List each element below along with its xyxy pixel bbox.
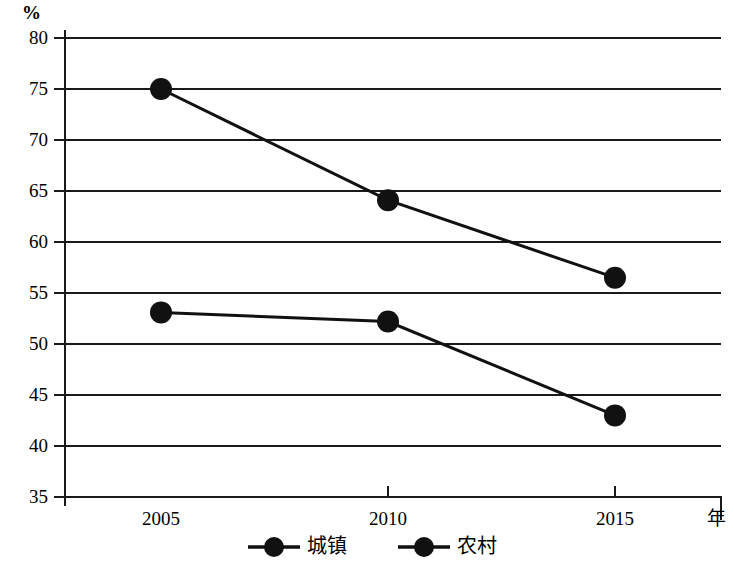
y-tick-marks	[54, 38, 65, 497]
y-tick-label-40: 40	[2, 436, 48, 455]
data-point-rural-2010	[377, 189, 399, 211]
legend-item-rural-label: 农村	[457, 536, 497, 556]
data-point-urban-2010	[377, 311, 399, 333]
legend-marker-rural-icon	[398, 537, 450, 557]
chart-canvas	[0, 0, 734, 566]
data-point-rural-2015	[604, 267, 626, 289]
y-tick-label-45: 45	[2, 385, 48, 404]
x-tick-label-2005: 2005	[116, 509, 206, 528]
y-tick-label-70: 70	[2, 130, 48, 149]
data-point-rural-2005	[150, 78, 172, 100]
y-axis-unit-label: %	[22, 3, 41, 22]
y-tick-label-35: 35	[2, 487, 48, 506]
data-point-urban-2005	[150, 301, 172, 323]
line-chart: % 80 75 70 65 60 55 50 45 40 35 2005 201…	[0, 0, 734, 566]
legend-item-urban-label: 城镇	[307, 536, 347, 556]
y-tick-label-55: 55	[2, 283, 48, 302]
series-markers-urban	[150, 301, 626, 426]
x-tick-label-2010: 2010	[343, 509, 433, 528]
legend-marker-urban-icon	[248, 537, 300, 557]
series-line-rural	[161, 89, 615, 278]
x-tick-label-2015: 2015	[570, 509, 660, 528]
x-tick-marks	[388, 486, 615, 497]
y-tick-label-75: 75	[2, 79, 48, 98]
y-tick-label-60: 60	[2, 232, 48, 251]
y-tick-label-50: 50	[2, 334, 48, 353]
y-tick-label-65: 65	[2, 181, 48, 200]
data-point-urban-2015	[604, 404, 626, 426]
x-axis-title: 年	[707, 509, 726, 528]
y-tick-label-80: 80	[2, 28, 48, 47]
